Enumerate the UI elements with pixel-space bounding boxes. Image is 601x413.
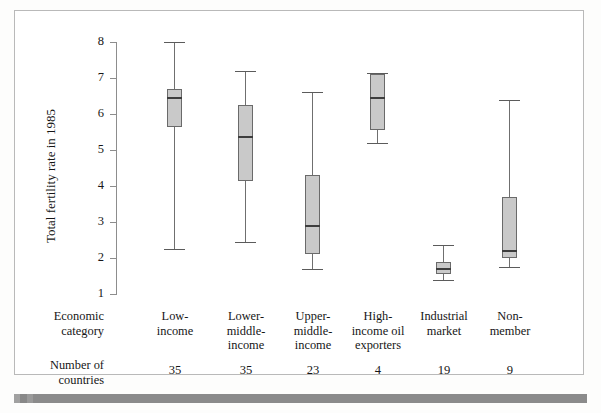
row-header-line2: countries xyxy=(59,373,104,387)
category-label-line: middle- xyxy=(227,324,266,338)
count-label-6: 9 xyxy=(470,363,550,377)
category-label-line: Upper- xyxy=(296,309,331,323)
row-header-line2: category xyxy=(61,324,104,338)
figure-page: 87654321 Total fertility rate in 1985 Ec… xyxy=(0,0,601,413)
scan-artifact-bar xyxy=(14,394,587,403)
category-label-line: income xyxy=(157,324,193,338)
category-label-line: Lower- xyxy=(228,309,264,323)
category-label-line: market xyxy=(427,324,461,338)
category-label-line: income xyxy=(295,338,331,352)
row-header-economic-category: Economic category xyxy=(18,309,104,338)
row-header-line1: Economic xyxy=(54,309,104,323)
category-label-line: exporters xyxy=(355,338,401,352)
count-label-1: 35 xyxy=(135,363,215,377)
category-label-line: middle- xyxy=(294,324,333,338)
row-header-line1: Number of xyxy=(50,358,104,372)
category-label-line: Industrial xyxy=(420,309,468,323)
category-label-line: Low- xyxy=(162,309,189,323)
category-label-line: income xyxy=(228,338,264,352)
row-header-number-of-countries: Number of countries xyxy=(18,358,104,387)
category-label-6: Non-member xyxy=(470,309,550,338)
category-label-line: income oil xyxy=(352,324,405,338)
category-label-line: member xyxy=(490,324,531,338)
category-label-line: High- xyxy=(364,309,393,323)
category-table: Economic category Number of countries Lo… xyxy=(0,305,601,377)
category-label-line: Non- xyxy=(497,309,522,323)
category-label-1: Low-income xyxy=(135,309,215,338)
